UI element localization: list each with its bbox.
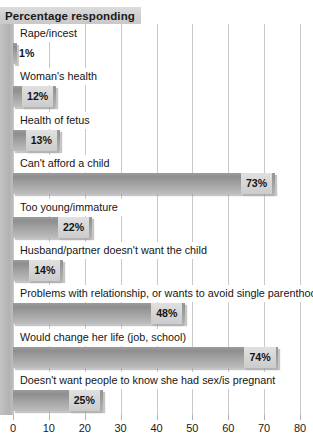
x-tick-70: [264, 415, 265, 420]
category-label: Doesn't want people to know she had sex/…: [17, 372, 279, 389]
category-label: Can't afford a child: [17, 155, 114, 172]
x-tick-label: 80: [294, 422, 306, 434]
bar-group: Woman's health12%: [13, 68, 313, 113]
chart-title: Percentage responding: [5, 10, 135, 22]
x-axis: 01020304050607080: [13, 415, 313, 446]
x-tick-60: [228, 415, 229, 420]
bar-group: Can't afford a child73%: [13, 155, 313, 200]
percentage-responding-bar-chart: Rape/incest1%Woman's health12%Health of …: [0, 0, 313, 446]
bar-group: Doesn't want people to know she had sex/…: [13, 372, 313, 417]
category-label: Husband/partner doesn't want the child: [17, 242, 211, 259]
bar-value-label: 73%: [241, 173, 272, 194]
x-tick-label: 40: [150, 422, 162, 434]
x-tick-10: [49, 415, 50, 420]
bar-group: Husband/partner doesn't want the child14…: [13, 242, 313, 287]
category-label: Would change her life (job, school): [17, 329, 190, 346]
x-tick-0: [13, 415, 14, 420]
x-tick-label: 50: [186, 422, 198, 434]
plot-area: Rape/incest1%Woman's health12%Health of …: [13, 24, 313, 415]
bar-value-label: 74%: [244, 347, 275, 368]
bar-group: Problems with relationship, or wants to …: [13, 285, 313, 330]
x-tick-label: 60: [222, 422, 234, 434]
x-tick-label: 30: [115, 422, 127, 434]
chart-title-band: Percentage responding: [0, 7, 141, 24]
category-label: Woman's health: [17, 68, 101, 85]
bar-value-label: 13%: [26, 130, 57, 151]
bar-group: Health of fetus13%: [13, 112, 313, 157]
x-tick-40: [157, 415, 158, 420]
category-label: Too young/immature: [17, 199, 122, 216]
category-label: Health of fetus: [17, 112, 94, 129]
x-tick-80: [300, 415, 301, 420]
x-tick-label: 70: [258, 422, 270, 434]
bar-group: Rape/incest1%: [13, 25, 313, 70]
x-tick-label: 20: [79, 422, 91, 434]
bar-value-label: 1%: [15, 43, 39, 64]
bar-value-label: 25%: [69, 390, 100, 411]
left-gutter-strip: [0, 24, 13, 415]
category-label: Problems with relationship, or wants to …: [17, 285, 313, 302]
bar-group: Would change her life (job, school)74%: [13, 329, 313, 374]
category-label: Rape/incest: [17, 25, 81, 42]
bar: [13, 347, 278, 368]
x-tick-label: 0: [10, 422, 16, 434]
bar-value-label: 12%: [22, 86, 53, 107]
x-tick-30: [121, 415, 122, 420]
bar-value-label: 14%: [29, 260, 60, 281]
bar-value-label: 22%: [58, 217, 89, 238]
bar-group: Too young/immature22%: [13, 199, 313, 244]
x-tick-20: [85, 415, 86, 420]
x-tick-50: [192, 415, 193, 420]
bar: [13, 173, 275, 194]
bar-value-label: 48%: [151, 303, 182, 324]
x-tick-label: 10: [43, 422, 55, 434]
